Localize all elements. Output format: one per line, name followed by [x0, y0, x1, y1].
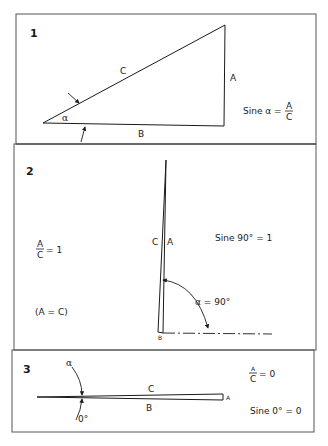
panel-2-triangle — [158, 160, 166, 333]
panel-2-angle-label: α = 90° — [195, 297, 230, 307]
panel-3-label-a: A — [226, 394, 231, 401]
panel-2-label-b: B — [158, 334, 162, 341]
ratio-numerator: A — [37, 239, 44, 249]
panel-2-baseline — [163, 333, 272, 334]
panel-3-label-c: C — [148, 384, 154, 394]
panel-1-label-a: A — [230, 73, 237, 83]
panel-1: 1 C A B α Sine α = A C — [30, 25, 293, 142]
panel-1-triangle — [43, 25, 225, 126]
panel-2-formula: Sine 90° = 1 — [215, 233, 272, 243]
ratio-numerator: A — [251, 365, 256, 372]
panel-1-label-alpha: α — [62, 113, 68, 123]
panel-1-angle-arrows — [68, 93, 85, 142]
ratio-rhs: = 1 — [46, 245, 62, 255]
panel-3-triangle — [37, 394, 223, 400]
panel-2-label-a: A — [167, 237, 174, 247]
panel-1-number: 1 — [30, 27, 38, 40]
panel-3-formula: Sine 0° = 0 — [250, 406, 302, 416]
panel-2-number: 2 — [26, 165, 34, 178]
panel-3-label-alpha: α — [66, 358, 72, 368]
panel-1-label-b: B — [138, 129, 144, 139]
ratio-rhs: = 0 — [259, 369, 275, 379]
panel-3-angle-value: 0° — [78, 414, 88, 424]
panel-1-formula: Sine α = A C — [243, 101, 293, 122]
panel-1-label-c: C — [120, 66, 126, 76]
panel-3: 3 α 0° C A B A C = 0 Sine 0° = 0 — [23, 358, 302, 424]
panel-2-equality: (A = C) — [35, 307, 68, 317]
fraction-numerator: A — [286, 101, 293, 111]
panel-2-ratio: A C = 1 — [36, 239, 62, 260]
ratio-denominator: C — [250, 374, 256, 384]
panel-2-label-c: C — [152, 237, 158, 247]
ratio-denominator: C — [37, 250, 43, 260]
panel-3-label-b: B — [146, 403, 152, 413]
panel-3-ratio: A C = 0 — [249, 365, 275, 384]
panel-3-number: 3 — [23, 363, 31, 376]
fraction-denominator: C — [286, 112, 292, 122]
sine-diagram: 1 C A B α Sine α = A C 2 C A — [0, 0, 328, 446]
sine-alpha-lhs: Sine α = — [243, 106, 282, 116]
panel-2: 2 C A B α = 90° Sine 90° = 1 A C = 1 (A … — [26, 160, 272, 341]
panel-3-angle-arrow-top — [72, 367, 82, 395]
